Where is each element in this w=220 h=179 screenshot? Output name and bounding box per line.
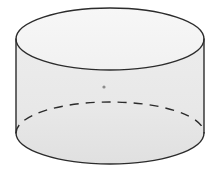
cylinder-diagram: Right circular cylinder Three-dimensiona… [0, 0, 220, 179]
figure-canvas: Right circular cylinder Three-dimensiona… [0, 0, 220, 179]
center-dot [102, 85, 105, 88]
